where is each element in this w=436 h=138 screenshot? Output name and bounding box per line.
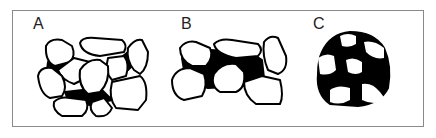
grain-packing-diagram [0,0,436,138]
panel-b-grains [172,37,286,104]
panel-a-grains [38,38,148,116]
panel-c-matrix [318,32,390,106]
